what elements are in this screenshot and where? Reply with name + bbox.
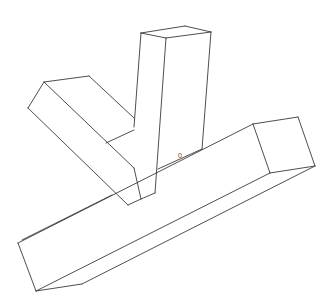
diagram-labels: 0 bbox=[178, 152, 182, 159]
diagram-label: 0 bbox=[178, 152, 182, 159]
beam-joint-diagram: 0 bbox=[0, 0, 336, 299]
beam-faces bbox=[18, 26, 315, 291]
